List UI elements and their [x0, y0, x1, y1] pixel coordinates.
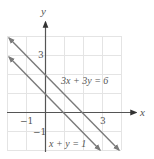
coordinate-plane: y x −1 3 3 −1 3x + 3y = 6 x + y = 1: [0, 0, 154, 159]
tick-x-3: 3: [100, 116, 106, 126]
tick-y-3: 3: [38, 50, 44, 60]
tick-y-neg1: −1: [33, 127, 46, 137]
x-axis-label: x: [139, 106, 145, 118]
line-x-plus-y-equals-1: [9, 57, 100, 150]
equation-label-line-b: x + y = 1: [48, 138, 86, 149]
y-axis-label: y: [40, 5, 46, 17]
equation-label-line-a: 3x + 3y = 6: [60, 75, 108, 86]
tick-x-neg1: −1: [20, 116, 33, 126]
